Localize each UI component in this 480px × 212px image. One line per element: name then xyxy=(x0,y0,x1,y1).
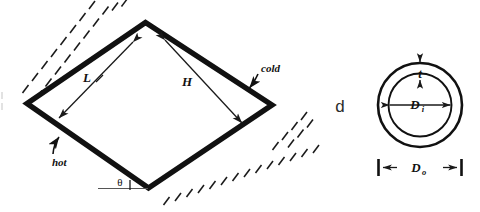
label-L: L xyxy=(82,70,91,85)
label-cold: cold xyxy=(261,62,280,74)
dimension-Do: D o xyxy=(379,159,462,177)
panel-label-d: d xyxy=(335,97,344,116)
enclosure-panel: L H cold hot xyxy=(23,0,320,205)
callout-hot: hot xyxy=(52,137,68,168)
annulus-panel: d t D i D o xyxy=(335,55,462,177)
label-H: H xyxy=(181,74,193,89)
figure-root: L H cold hot xyxy=(0,0,480,212)
label-Do: D xyxy=(410,160,421,175)
label-Do-subscript: o xyxy=(422,167,426,177)
label-H-group: H xyxy=(181,74,193,89)
label-t: t xyxy=(418,66,422,81)
technical-diagram-svg: L H cold hot xyxy=(0,0,480,212)
label-theta: θ xyxy=(117,176,122,188)
callout-cold: cold xyxy=(250,62,281,88)
dimension-t: t xyxy=(418,55,422,87)
dimension-Di: D i xyxy=(390,97,451,114)
label-Di: D xyxy=(409,97,420,112)
label-hot: hot xyxy=(52,156,68,168)
